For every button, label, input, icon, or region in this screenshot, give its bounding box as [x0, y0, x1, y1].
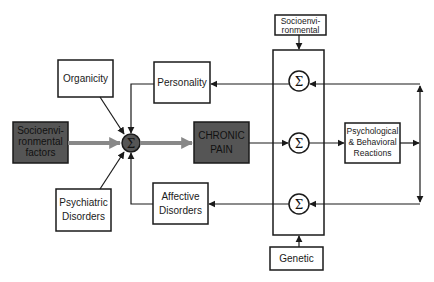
arrow-psychiatric-to-sum: [100, 152, 124, 189]
chronic-pain-diagram: Organicity Socioenvi- ronmental factors …: [0, 0, 434, 282]
socioenvironmental-top-box: Socioenvi- ronmental: [275, 15, 326, 35]
sigma-icon: Σ: [295, 75, 303, 89]
psych-behav-line-1: Psychological: [347, 126, 399, 136]
sigma-icon: Σ: [295, 198, 303, 212]
organicity-label: Organicity: [63, 73, 108, 84]
sigma-icon: Σ: [295, 137, 303, 151]
arrow-personality-to-sum: [131, 84, 154, 133]
sigma-icon: Σ: [127, 137, 135, 151]
arrow-affective-to-sum: [131, 153, 153, 204]
socio-factors-line-2: ronmental: [18, 136, 62, 147]
organicity-box: Organicity: [58, 60, 113, 97]
psych-behav-line-2: & Behavioral: [348, 137, 396, 147]
central-summation-node: Σ: [122, 134, 140, 152]
socioenvironmental-factors-box: Socioenvi- ronmental factors: [13, 122, 68, 163]
psychiatric-disorders-box: Psychiatric Disorders: [56, 189, 111, 231]
socio-factors-line-1: Socioenvi-: [17, 125, 64, 136]
chronic-pain-line-2: PAIN: [210, 144, 233, 155]
summation-node-bottom: Σ: [289, 194, 309, 214]
socio-top-line-2: ronmental: [282, 25, 320, 35]
affective-disorders-box: Affective Disorders: [153, 183, 208, 224]
summation-node-middle: Σ: [289, 133, 309, 153]
personality-label: Personality: [157, 77, 206, 88]
affective-line-1: Affective: [161, 191, 200, 202]
psychiatric-line-1: Psychiatric: [59, 197, 107, 208]
chronic-pain-box: CHRONIC PAIN: [194, 122, 249, 163]
psych-behav-line-3: Reactions: [354, 148, 392, 158]
personality-box: Personality: [154, 62, 210, 103]
genetic-label: Genetic: [279, 253, 313, 264]
summation-node-top: Σ: [289, 71, 309, 91]
affective-line-2: Disorders: [159, 205, 202, 216]
chronic-pain-line-1: CHRONIC: [198, 130, 245, 141]
psychiatric-line-2: Disorders: [62, 211, 105, 222]
psych-behavioral-reactions-box: Psychological & Behavioral Reactions: [345, 123, 400, 163]
genetic-box: Genetic: [270, 247, 323, 270]
socio-factors-line-3: factors: [25, 147, 55, 158]
arrow-organicity-to-sum: [100, 97, 124, 134]
